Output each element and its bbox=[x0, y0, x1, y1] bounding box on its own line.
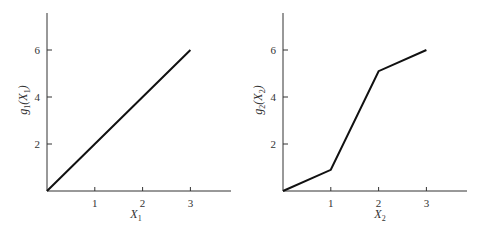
data-line-g1 bbox=[47, 50, 190, 191]
y-tick-label: 2 bbox=[271, 138, 277, 150]
x-axis-label: X2 bbox=[373, 207, 385, 223]
y-axis-label: g1(X1) bbox=[16, 85, 32, 114]
x-axis-label: X1 bbox=[129, 207, 141, 223]
x-tick-label: 1 bbox=[328, 197, 334, 209]
y-tick-label: 4 bbox=[35, 91, 41, 103]
y-tick-label: 6 bbox=[271, 44, 277, 56]
ticks: 123246 bbox=[271, 44, 430, 209]
x-tick-label: 3 bbox=[188, 197, 194, 209]
ticks: 123246 bbox=[35, 44, 194, 209]
chart-left: 123246 X1 g1(X1) bbox=[16, 13, 231, 223]
y-tick-label: 4 bbox=[271, 91, 277, 103]
chart-right: 123246 X2 g2(X2) bbox=[251, 13, 467, 223]
x-tick-label: 3 bbox=[424, 197, 430, 209]
y-tick-label: 2 bbox=[35, 138, 41, 150]
x-tick-label: 1 bbox=[92, 197, 98, 209]
y-axis-label: g2(X2) bbox=[251, 85, 267, 114]
chart-canvas: 123246 X1 g1(X1) 123246 X2 g2(X2) bbox=[0, 0, 481, 235]
y-tick-label: 6 bbox=[35, 44, 41, 56]
data-line-g2 bbox=[283, 50, 426, 191]
x-tick-label: 2 bbox=[140, 197, 146, 209]
